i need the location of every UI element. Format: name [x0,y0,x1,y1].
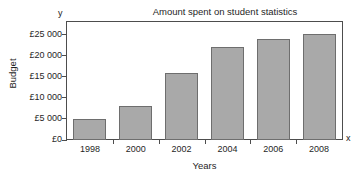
bar-1998 [73,119,106,140]
y-axis-tick [62,55,67,56]
bar-2006 [257,39,290,140]
y-axis-tick-label: £10 000 [29,93,62,102]
bar-chart-figure: Amount spent on student statistics y x B… [0,0,359,182]
y-axis-letter: y [58,8,63,18]
x-axis-tick-label-2006: 2006 [250,144,296,155]
y-axis-tick [62,76,67,77]
x-axis-tick-label-2000: 2000 [113,144,159,155]
plot-area [67,22,342,140]
y-axis-tick [62,97,67,98]
y-axis-tick [62,140,67,141]
y-axis-tick [62,118,67,119]
y-axis-tick-label: £15 000 [29,72,62,81]
chart-title: Amount spent on student statistics [110,6,340,17]
bar-2004 [211,47,244,140]
y-axis-tick-label: £25 000 [29,30,62,39]
bar-2002 [165,73,198,140]
x-axis-letter: x [346,133,351,143]
x-axis-tick-label-2004: 2004 [204,144,250,155]
y-axis-tick [62,34,67,35]
x-axis-tick-label-1998: 1998 [67,144,113,155]
x-axis-title: Years [66,160,343,171]
bar-2008 [303,34,336,140]
bar-2000 [119,106,152,140]
y-axis-title: Budget [7,44,18,104]
x-axis-tick-label-2002: 2002 [159,144,205,155]
y-axis-tick-label: £5 000 [34,114,62,123]
x-axis-tick-label-2008: 2008 [296,144,342,155]
y-axis-tick-label: £20 000 [29,51,62,60]
y-axis-tick-label: £0 [52,135,62,144]
